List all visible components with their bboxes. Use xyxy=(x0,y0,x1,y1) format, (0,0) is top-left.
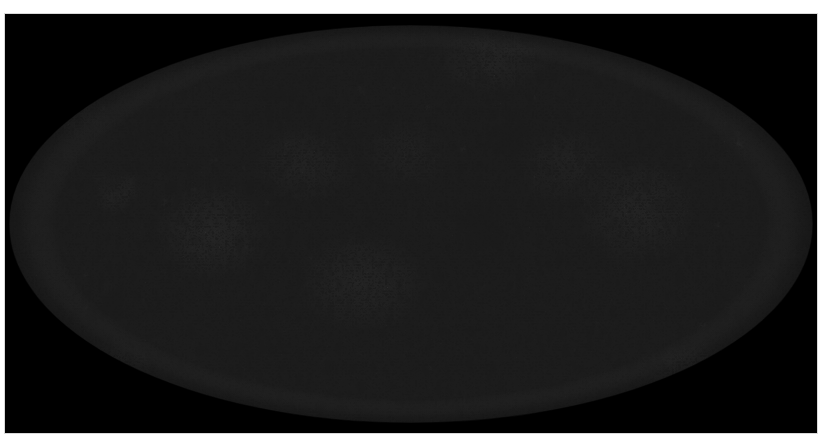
limb-shading xyxy=(9,25,813,423)
mollweide-sky-map xyxy=(5,14,817,433)
sky-map-black-frame xyxy=(5,14,817,433)
sky-map-svg xyxy=(5,14,817,433)
cmb-sky-map-figure xyxy=(0,0,826,446)
